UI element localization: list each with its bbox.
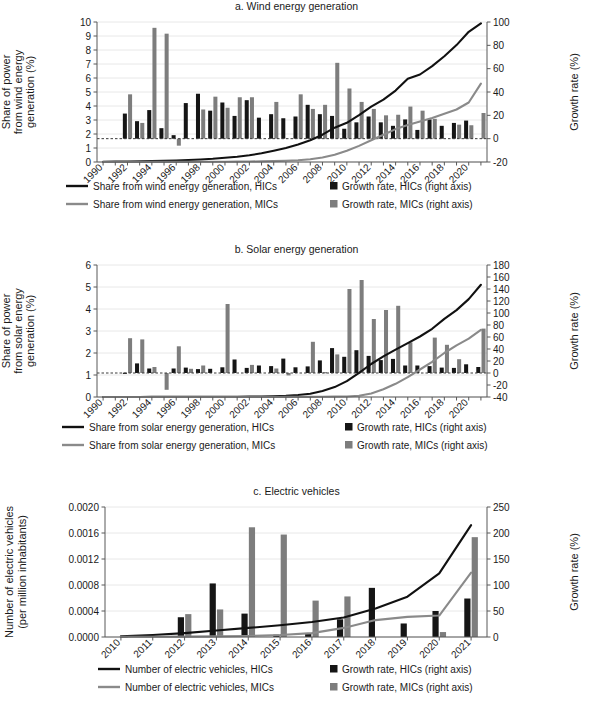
legend-square-swatch bbox=[330, 182, 338, 190]
y2-tick-label: 20 bbox=[493, 356, 505, 367]
y-tick-label: 6 bbox=[85, 260, 91, 271]
y-axis-title: (per million inhabitants) bbox=[16, 515, 28, 629]
y-axis-title: generation (%) bbox=[24, 295, 36, 367]
y2-tick-label: 140 bbox=[493, 284, 510, 295]
legend-label: Growth rate, HICs (right axis) bbox=[342, 181, 471, 192]
x-tick-label: 2012 bbox=[349, 396, 373, 420]
x-tick-label: 2014 bbox=[373, 396, 397, 420]
y2-axis-title: Growth rate (%) bbox=[568, 292, 580, 370]
y-axis-title: from solar energy bbox=[12, 288, 24, 374]
legend-label: Share from wind energy generation, MICs bbox=[93, 199, 278, 210]
y2-tick-label: 40 bbox=[493, 87, 505, 98]
legend-square-swatch bbox=[345, 423, 353, 431]
x-tick-label: 2016 bbox=[398, 396, 422, 420]
y-tick-label: 5 bbox=[85, 282, 91, 293]
legend-square-swatch bbox=[330, 683, 338, 691]
y2-tick-label: 20 bbox=[493, 110, 505, 121]
x-tick-label: 2002 bbox=[227, 396, 251, 420]
legend-item: Growth rate, HICs (right axis) bbox=[330, 181, 471, 192]
y-tick-label: 5 bbox=[85, 87, 91, 98]
x-tick-label: 1998 bbox=[178, 396, 202, 420]
y2-tick-label: 150 bbox=[493, 554, 510, 565]
legend-label: Growth rate, HICs (right axis) bbox=[357, 422, 486, 433]
y-tick-label: 2 bbox=[85, 129, 91, 140]
x-tick-label: 2004 bbox=[252, 396, 276, 420]
chart-c-canvas: 0.00000.00040.00080.00120.00160.00200501… bbox=[0, 499, 593, 719]
legend-item: Number of electric vehicles, HICs bbox=[98, 664, 273, 675]
y-tick-label: 1 bbox=[85, 143, 91, 154]
x-tick-label: 2018 bbox=[353, 636, 377, 660]
legend-label: Share from solar energy generation, MICs bbox=[89, 440, 275, 451]
x-tick-label: 1992 bbox=[105, 396, 129, 420]
y2-tick-label: 120 bbox=[493, 296, 510, 307]
chart-b-canvas: 0123456-40-20020406080100120140160180199… bbox=[0, 257, 593, 485]
y-axis-title: Number of electric vehicles bbox=[3, 505, 15, 638]
x-tick-label: 1994 bbox=[130, 396, 154, 420]
x-tick-label: 2020 bbox=[447, 396, 471, 420]
legend-label: Growth rate, MICs (right axis) bbox=[357, 440, 488, 451]
x-tick-label: 2020 bbox=[417, 636, 441, 660]
y-tick-label: 10 bbox=[80, 17, 92, 28]
y2-tick-label: 100 bbox=[493, 308, 510, 319]
line-series bbox=[103, 285, 481, 397]
y-tick-label: 0.0012 bbox=[68, 554, 99, 565]
legend-label: Number of electric vehicles, MICs bbox=[125, 682, 274, 693]
legend-item: Growth rate, MICs (right axis) bbox=[330, 682, 473, 693]
y2-tick-label: -40 bbox=[493, 392, 508, 403]
y2-tick-label: 60 bbox=[493, 332, 505, 343]
x-tick-label: 1996 bbox=[154, 396, 178, 420]
legend-item: Share from solar energy generation, MICs bbox=[62, 440, 275, 451]
y-tick-label: 1 bbox=[85, 370, 91, 381]
y2-tick-label: 200 bbox=[493, 528, 510, 539]
x-tick-label: 2021 bbox=[449, 636, 473, 660]
legend-item: Growth rate, HICs (right axis) bbox=[330, 664, 471, 675]
bar-series bbox=[122, 527, 478, 637]
legend-square-swatch bbox=[330, 200, 338, 208]
y-tick-label: 0 bbox=[85, 157, 91, 168]
x-tick-label: 2014 bbox=[226, 636, 250, 660]
y-tick-label: 0.0020 bbox=[68, 502, 99, 513]
y-tick-label: 0 bbox=[85, 392, 91, 403]
y-tick-label: 8 bbox=[85, 45, 91, 56]
legend-label: Number of electric vehicles, HICs bbox=[125, 664, 273, 675]
panel-solar-energy: b. Solar energy generation 0123456-40-20… bbox=[0, 243, 593, 485]
x-tick-label: 2011 bbox=[131, 636, 154, 659]
legend-label: Growth rate, MICs (right axis) bbox=[342, 682, 473, 693]
y-tick-label: 6 bbox=[85, 73, 91, 84]
y-tick-label: 4 bbox=[85, 101, 91, 112]
x-tick-label: 2010 bbox=[325, 396, 349, 420]
y2-tick-label: 100 bbox=[493, 17, 510, 28]
y2-axis-title: Growth rate (%) bbox=[568, 53, 580, 131]
x-tick-label: 2013 bbox=[194, 636, 218, 660]
panel-wind-energy: a. Wind energy generation 012345678910-2… bbox=[0, 0, 593, 243]
y2-tick-label: 160 bbox=[493, 272, 510, 283]
y2-tick-label: 0 bbox=[493, 368, 499, 379]
line-series bbox=[121, 525, 471, 636]
y-tick-label: 0.0004 bbox=[68, 606, 99, 617]
bar-series bbox=[123, 348, 480, 374]
bar-series bbox=[123, 94, 468, 139]
x-tick-label: 2012 bbox=[162, 636, 186, 660]
y2-tick-label: 0 bbox=[493, 632, 499, 643]
legend-item: Share from wind energy generation, HICs bbox=[66, 181, 277, 192]
y2-axis-title: Growth rate (%) bbox=[568, 533, 580, 611]
legend-label: Share from solar energy generation, HICs bbox=[89, 422, 274, 433]
x-tick-label: 2019 bbox=[385, 636, 409, 660]
y-axis-title: from wind energy bbox=[12, 49, 24, 134]
x-tick-label: 2010 bbox=[99, 636, 123, 660]
legend-item: Growth rate, HICs (right axis) bbox=[345, 422, 486, 433]
y-tick-label: 4 bbox=[85, 304, 91, 315]
legend-label: Growth rate, HICs (right axis) bbox=[342, 664, 471, 675]
y-tick-label: 0.0008 bbox=[68, 580, 99, 591]
x-tick-label: 2017 bbox=[322, 636, 346, 660]
y2-tick-label: 80 bbox=[493, 40, 505, 51]
y2-tick-label: 60 bbox=[493, 63, 505, 74]
x-tick-label: 2008 bbox=[300, 161, 324, 185]
y-axis-title: Share of power bbox=[0, 54, 12, 129]
y-tick-label: 3 bbox=[85, 115, 91, 126]
x-tick-label: 2018 bbox=[422, 396, 446, 420]
line-series bbox=[103, 330, 481, 397]
legend-label: Growth rate, MICs (right axis) bbox=[342, 199, 473, 210]
figure-root: renewable energy and electric vehicles a… bbox=[0, 0, 593, 719]
x-tick-label: 2006 bbox=[276, 396, 300, 420]
